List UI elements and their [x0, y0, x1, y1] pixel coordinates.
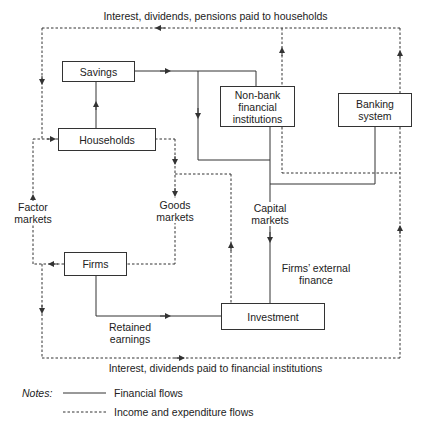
non-bank-label-3: institutions: [233, 113, 283, 125]
non-bank-financial-institutions-node: Non-bank financial institutions: [220, 86, 295, 127]
investment-label: Investment: [247, 311, 298, 323]
factor-markets-label: Factor markets: [10, 201, 56, 225]
banking-system-node: Banking system: [338, 93, 412, 127]
firms-external-finance-label: Firms’ external finance: [276, 262, 356, 286]
goods-markets-label: Goods markets: [152, 199, 198, 223]
non-bank-label-1: Non-bank: [235, 89, 281, 101]
non-bank-label-2: financial: [238, 101, 277, 113]
capital-markets-label: Capital markets: [249, 202, 291, 226]
investment-node: Investment: [221, 303, 325, 330]
legend-title: Notes:: [22, 387, 52, 399]
savings-label: Savings: [80, 66, 117, 78]
firms-label: Firms: [82, 258, 108, 270]
firms-node: Firms: [64, 252, 127, 276]
retained-earnings-label: Retained earnings: [104, 321, 156, 345]
households-label: Households: [79, 134, 134, 146]
households-node: Households: [58, 128, 156, 151]
legend-dashed-label: Income and expenditure flows: [114, 406, 254, 418]
banking-label-2: system: [358, 110, 391, 122]
bottom-flow-label: Interest, dividends paid to financial in…: [0, 362, 431, 374]
legend-solid-label: Financial flows: [114, 387, 183, 399]
top-flow-label: Interest, dividends, pensions paid to ho…: [0, 10, 431, 22]
banking-label-1: Banking: [356, 98, 394, 110]
savings-node: Savings: [62, 61, 135, 82]
